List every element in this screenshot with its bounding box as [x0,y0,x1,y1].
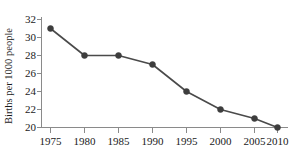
y-tick-label: 20 [25,121,37,133]
data-series-births [48,26,281,131]
y-tick-label: 24 [25,85,37,97]
x-tick-label: 1985 [108,135,131,147]
y-tick-label: 26 [25,67,37,79]
x-tick-label: 1975 [40,135,63,147]
series-markers [48,26,281,131]
data-point [116,53,122,59]
data-point [252,116,258,122]
x-tick-label: 1980 [74,135,97,147]
data-point [275,125,281,131]
y-tick-label: 32 [25,13,36,25]
y-tick-label: 28 [25,49,37,61]
series-line [51,29,278,128]
line-chart: Births per 1000 people 32 30 28 26 24 22… [0,0,296,161]
y-axis-title: Births per 1000 people [3,28,14,124]
x-tick-label: 2010 [267,135,290,147]
data-point [184,89,190,95]
y-tick-label: 30 [25,31,37,43]
data-point [48,26,54,32]
chart-canvas: Births per 1000 people 32 30 28 26 24 22… [0,0,296,161]
x-tick-label: 1990 [142,135,165,147]
data-point [218,107,224,113]
data-point [150,62,156,68]
y-tick-label: 22 [25,103,36,115]
x-tick-label: 1995 [176,135,199,147]
data-point [82,53,88,59]
x-tick-label: 2005 [244,135,267,147]
x-tick-label: 2000 [210,135,233,147]
